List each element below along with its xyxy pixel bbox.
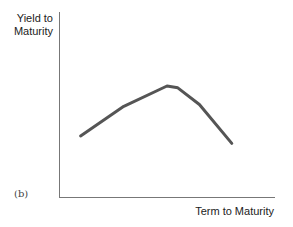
yield-curve-line — [81, 86, 232, 143]
chart-canvas — [0, 0, 293, 227]
